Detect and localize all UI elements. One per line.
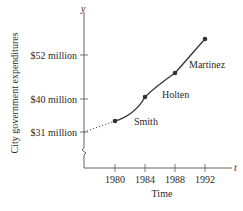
data-line xyxy=(115,39,205,121)
point-1984 xyxy=(143,95,148,100)
extrapolation-line xyxy=(84,121,115,132)
annotation-smith: Smith xyxy=(134,116,158,127)
x-axis-label: Time xyxy=(152,188,173,199)
x-tick-label-1980: 1980 xyxy=(105,174,125,185)
point-1992 xyxy=(203,37,208,42)
x-tick-label-1988: 1988 xyxy=(165,174,185,185)
x-axis-variable: t xyxy=(234,162,237,173)
y-axis-label: City government expenditures xyxy=(9,32,20,153)
point-1988 xyxy=(173,71,178,76)
x-axis: t 1980 1984 1988 1992 Time xyxy=(84,162,237,199)
annotation-holten: Holten xyxy=(162,89,189,100)
data-points xyxy=(113,37,208,124)
y-tick-label-52: $52 million xyxy=(31,50,77,61)
axis-break-icon xyxy=(82,148,86,155)
y-axis: y $52 million $40 million $31 million Ci… xyxy=(9,3,88,168)
expenditures-chart: y $52 million $40 million $31 million Ci… xyxy=(0,0,243,211)
y-tick-label-31: $31 million xyxy=(31,127,77,138)
y-tick-label-40: $40 million xyxy=(31,94,77,105)
point-1980 xyxy=(113,119,118,124)
annotation-martinez: Martinez xyxy=(189,59,226,70)
y-axis-variable: y xyxy=(80,3,86,14)
x-tick-label-1984: 1984 xyxy=(135,174,155,185)
x-tick-label-1992: 1992 xyxy=(195,174,215,185)
